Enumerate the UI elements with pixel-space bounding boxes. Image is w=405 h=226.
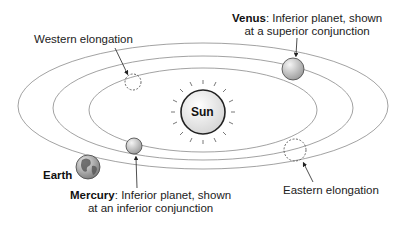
eastern-elongation-label: Eastern elongation bbox=[283, 184, 379, 197]
venus-icon bbox=[282, 58, 304, 80]
mercury-desc: : Inferior planet, shown bbox=[115, 189, 231, 201]
western-elongation-label: Western elongation bbox=[34, 33, 133, 46]
earth-label: Earth bbox=[43, 169, 72, 182]
western-elongation-pointer bbox=[115, 48, 127, 73]
mercury-name: Mercury bbox=[70, 189, 115, 201]
venus-desc: : Inferior planet, shown bbox=[266, 12, 382, 24]
earth-icon bbox=[76, 155, 100, 179]
mercury-pointer bbox=[136, 158, 137, 188]
venus-label: Venus: Inferior planet, shown at a super… bbox=[232, 12, 382, 38]
eastern-elongation-pointer bbox=[304, 164, 313, 182]
mercury-icon bbox=[126, 138, 142, 154]
venus-line2: at a superior conjunction bbox=[232, 25, 382, 38]
sun-label: Sun bbox=[191, 106, 214, 119]
venus-pointer bbox=[296, 38, 297, 55]
eastern-elongation-marker bbox=[284, 139, 306, 161]
mercury-line2: at an inferior conjunction bbox=[70, 202, 231, 215]
venus-name: Venus bbox=[232, 12, 266, 24]
mercury-label: Mercury: Inferior planet, shown at an in… bbox=[70, 189, 231, 215]
